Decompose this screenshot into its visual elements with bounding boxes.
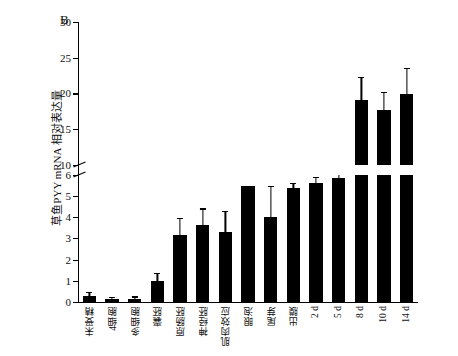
error-bar-cap bbox=[404, 68, 410, 69]
error-bar-cap bbox=[381, 92, 387, 93]
bar-item bbox=[241, 22, 255, 302]
x-category-label: 5 d bbox=[333, 306, 343, 318]
axis-break-band bbox=[79, 165, 418, 175]
bar-item bbox=[196, 22, 210, 302]
y-tick-label: 0 bbox=[66, 296, 72, 308]
error-bar bbox=[293, 184, 294, 187]
x-category-label: 8 d bbox=[355, 306, 365, 318]
error-bar-cap bbox=[200, 208, 206, 209]
y-tick-label: 30 bbox=[60, 16, 71, 28]
bar bbox=[151, 281, 165, 302]
bar bbox=[400, 94, 414, 302]
error-bar bbox=[270, 187, 271, 217]
y-tick-label: 4 bbox=[66, 211, 72, 223]
x-category-label: 原肠胚 bbox=[174, 306, 188, 336]
x-axis-line bbox=[78, 302, 418, 303]
error-bar bbox=[315, 178, 316, 182]
y-tick-label: 3 bbox=[66, 232, 72, 244]
error-bar-cap bbox=[154, 273, 160, 274]
x-category-label: 14 d bbox=[401, 306, 411, 323]
bar-item bbox=[332, 22, 346, 302]
error-bar bbox=[179, 219, 180, 235]
error-bar bbox=[134, 298, 135, 299]
bar bbox=[377, 110, 391, 302]
bar-item bbox=[173, 22, 187, 302]
bar-item bbox=[264, 22, 278, 302]
x-category-label: 出膜 bbox=[287, 306, 301, 326]
bar-item bbox=[128, 22, 142, 302]
bar bbox=[332, 178, 346, 302]
error-bar bbox=[157, 274, 158, 280]
error-bar bbox=[361, 78, 362, 100]
bar bbox=[83, 296, 97, 302]
y-tick-label: 1 bbox=[66, 275, 72, 287]
y-tick-label: 2 bbox=[66, 254, 72, 266]
bar bbox=[287, 188, 301, 302]
x-category-label: 眼泡 bbox=[242, 306, 256, 326]
x-category-label: 10 d bbox=[378, 306, 388, 323]
y-tick-label: 20 bbox=[60, 87, 71, 99]
y-tick-label: 15 bbox=[60, 123, 71, 135]
y-tick-label: 10 bbox=[60, 159, 71, 171]
error-bar-cap bbox=[268, 186, 274, 187]
bar-item bbox=[400, 22, 414, 302]
x-category-label: 肌肉效应 bbox=[219, 306, 233, 346]
bar bbox=[309, 183, 323, 302]
bar-item bbox=[219, 22, 233, 302]
plot-area: 01234561015202530 bbox=[78, 22, 418, 302]
error-bar-cap bbox=[109, 297, 115, 298]
error-bar-cap bbox=[222, 211, 228, 212]
bar-item bbox=[287, 22, 301, 302]
x-category-label: 4细胞 bbox=[106, 306, 120, 331]
error-bar bbox=[383, 93, 384, 110]
bar bbox=[241, 186, 255, 302]
bar-item bbox=[309, 22, 323, 302]
bar-item bbox=[105, 22, 119, 302]
bar-series bbox=[78, 22, 418, 302]
error-bar-cap bbox=[358, 77, 364, 78]
bar bbox=[128, 299, 142, 302]
bar bbox=[105, 299, 119, 302]
x-category-label: 多细胞 bbox=[129, 306, 143, 336]
error-bar bbox=[89, 293, 90, 296]
x-category-label: 囊胚 bbox=[151, 306, 165, 326]
error-bar bbox=[406, 69, 407, 94]
bar-item bbox=[355, 22, 369, 302]
error-bar-cap bbox=[86, 292, 92, 293]
error-bar-cap bbox=[313, 177, 319, 178]
error-bar-cap bbox=[290, 183, 296, 184]
x-category-label: 未受精 bbox=[83, 306, 97, 336]
bar-item bbox=[151, 22, 165, 302]
chart-root: B 草鱼PYY mRNA 相对表达量 01234561015202530 未受精… bbox=[0, 0, 458, 356]
bar bbox=[196, 225, 210, 303]
error-bar bbox=[225, 212, 226, 232]
x-category-label: 神经胚 bbox=[197, 306, 211, 336]
error-bar-cap bbox=[177, 218, 183, 219]
error-bar-cap bbox=[132, 296, 138, 297]
y-tick-label: 25 bbox=[60, 52, 71, 64]
y-tick bbox=[73, 302, 78, 303]
error-bar bbox=[111, 298, 112, 299]
error-bar-cap bbox=[245, 192, 251, 193]
x-axis-category-labels: 未受精4细胞多细胞囊胚原肠胚神经胚肌肉效应眼泡尾芽出膜2 d5 d8 d10 d… bbox=[78, 306, 418, 356]
x-category-label: 2 d bbox=[310, 306, 320, 318]
y-tick-label: 5 bbox=[66, 190, 72, 202]
bar bbox=[219, 232, 233, 302]
bar bbox=[264, 217, 278, 302]
bar bbox=[173, 235, 187, 302]
bar bbox=[355, 100, 369, 302]
x-category-label: 尾芽 bbox=[265, 306, 279, 326]
error-bar bbox=[202, 210, 203, 225]
bar-item bbox=[377, 22, 391, 302]
